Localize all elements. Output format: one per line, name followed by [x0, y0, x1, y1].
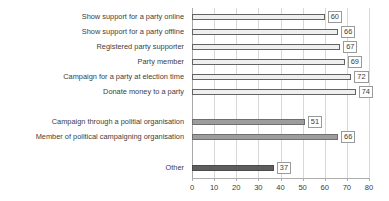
category-label: Party member — [138, 58, 184, 66]
bar-value-label: 67 — [343, 41, 357, 53]
x-tick-20 — [236, 178, 237, 181]
bar[interactable] — [192, 119, 305, 125]
x-tick-label: 30 — [254, 183, 262, 192]
x-tick-label: 20 — [232, 183, 240, 192]
category-label: Show support for a party offline — [82, 28, 184, 36]
x-tick-70 — [347, 178, 348, 181]
x-tick-80 — [369, 178, 370, 181]
bar[interactable] — [192, 59, 345, 65]
category-label: Donate money to a party — [103, 88, 184, 96]
bar-value-label: 72 — [354, 71, 368, 83]
x-tick-label: 50 — [298, 183, 306, 192]
bar[interactable] — [192, 134, 338, 140]
bar-value-label: 66 — [341, 131, 355, 143]
category-label: Member of political campaigning organisa… — [36, 133, 184, 141]
x-tick-10 — [214, 178, 215, 181]
category-label: Campaign for a party at election time — [63, 73, 184, 81]
category-label: Campaign through a politial organisation — [52, 118, 184, 126]
x-tick-label: 70 — [343, 183, 351, 192]
x-tick-30 — [258, 178, 259, 181]
x-tick-60 — [325, 178, 326, 181]
category-axis-labels: Show support for a party onlineShow supp… — [0, 0, 188, 201]
bar[interactable] — [192, 29, 338, 35]
bar-chart: Show support for a party onlineShow supp… — [0, 0, 389, 201]
bar[interactable] — [192, 165, 274, 171]
category-label: Registered party supporter — [96, 43, 184, 51]
bar-value-label: 66 — [341, 26, 355, 38]
category-label: Other — [166, 164, 184, 172]
bar-value-label: 60 — [328, 11, 342, 23]
bar-value-label: 69 — [348, 56, 362, 68]
x-tick-label: 0 — [190, 183, 194, 192]
x-tick-label: 10 — [210, 183, 218, 192]
bar[interactable] — [192, 89, 356, 95]
bar[interactable] — [192, 74, 351, 80]
bar[interactable] — [192, 44, 340, 50]
bar-value-label: 37 — [277, 162, 291, 174]
x-tick-40 — [281, 178, 282, 181]
bar[interactable] — [192, 14, 325, 20]
x-tick-label: 80 — [365, 183, 373, 192]
plot-area: 606667697274516637 — [192, 0, 369, 178]
x-tick-label: 40 — [276, 183, 284, 192]
x-tick-50 — [303, 178, 304, 181]
category-label: Show support for a party online — [82, 13, 184, 21]
x-tick-0 — [192, 178, 193, 181]
x-tick-label: 60 — [321, 183, 329, 192]
bar-value-label: 74 — [359, 86, 373, 98]
bar-value-label: 51 — [308, 116, 322, 128]
